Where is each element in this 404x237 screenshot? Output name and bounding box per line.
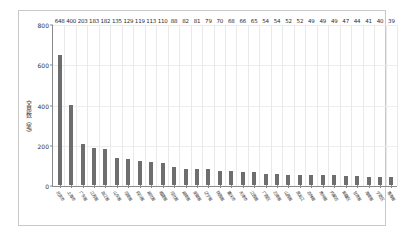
x-tick-mark [346, 185, 347, 188]
bar[interactable] [92, 148, 96, 185]
x-tick-label: 广东省 [77, 189, 88, 202]
x-tick-label: 四川省 [135, 189, 146, 202]
bar-value-label: 49 [319, 18, 326, 24]
bar[interactable] [149, 162, 153, 185]
bar-slot[interactable]: 41海南省 [363, 25, 374, 185]
x-tick-mark [60, 185, 61, 188]
bar-slot[interactable]: 49贵州省 [317, 25, 328, 185]
bar-value-label: 81 [194, 18, 201, 24]
bar-slot[interactable]: 400上海市 [65, 25, 76, 185]
bar-slot[interactable]: 52山西省 [283, 25, 294, 185]
bar-value-label: 82 [182, 18, 189, 24]
bar-slot[interactable]: 183江苏省 [88, 25, 99, 185]
bar[interactable] [81, 144, 85, 185]
bar[interactable] [378, 177, 382, 185]
bar[interactable] [241, 172, 245, 185]
bar[interactable] [367, 177, 371, 185]
bar-value-label: 52 [285, 18, 292, 24]
bar[interactable] [355, 176, 359, 185]
bar-slot[interactable]: 82湖南省 [180, 25, 191, 185]
bar-value-label: 79 [205, 18, 212, 24]
bar-value-label: 65 [251, 18, 258, 24]
bar-slot[interactable]: 81安徽省 [191, 25, 202, 185]
bar-slot[interactable]: 110福建省 [157, 25, 168, 185]
bar-slot[interactable]: 54云南省 [271, 25, 282, 185]
bar[interactable] [138, 161, 142, 185]
bar-slot[interactable]: 135山东省 [111, 25, 122, 185]
bar[interactable] [309, 175, 313, 185]
bar-slot[interactable]: 47新疆区 [340, 25, 351, 185]
x-tick-label: 湖北省 [146, 189, 157, 202]
bar-value-label: 183 [89, 18, 99, 24]
bar[interactable] [264, 174, 268, 185]
bar[interactable] [103, 149, 107, 185]
x-tick-mark [174, 185, 175, 188]
x-tick-label: 福建省 [157, 189, 168, 202]
bar[interactable] [195, 169, 199, 185]
bar-slot[interactable]: 203广东省 [77, 25, 88, 185]
bar[interactable] [218, 171, 222, 185]
bar[interactable] [161, 163, 165, 185]
bar-slot[interactable]: 40宁夏区 [374, 25, 385, 185]
bar-slot[interactable]: 79辽宁省 [203, 25, 214, 185]
bar-value-label: 52 [297, 18, 304, 24]
bar-slot[interactable]: 52黑龙江 [294, 25, 305, 185]
y-tick-mark [50, 145, 53, 146]
x-tick-mark [117, 185, 118, 188]
x-tick-mark [220, 185, 221, 188]
bar[interactable] [286, 175, 290, 185]
bar-value-label: 40 [377, 18, 384, 24]
x-tick-label: 北京市 [55, 189, 66, 202]
bar[interactable] [172, 167, 176, 185]
x-tick-label: 河北省 [169, 189, 180, 202]
bar[interactable] [298, 175, 302, 185]
bar-value-label: 68 [228, 18, 235, 24]
bar-slot[interactable]: 119四川省 [134, 25, 145, 185]
bar[interactable] [58, 55, 62, 185]
bar[interactable] [275, 174, 279, 185]
x-tick-label: 辽宁省 [203, 189, 214, 202]
bar-slot[interactable]: 44甘肃省 [351, 25, 362, 185]
x-tick-label: 上海市 [66, 189, 77, 202]
bar-value-label: 54 [262, 18, 269, 24]
bar-slot[interactable]: 182浙江省 [100, 25, 111, 185]
bar-slot[interactable]: 129河南省 [123, 25, 134, 185]
bar-value-label: 182 [101, 18, 111, 24]
bar-slot[interactable]: 68重庆市 [226, 25, 237, 185]
bar[interactable] [344, 176, 348, 185]
bar-slot[interactable]: 49吉林省 [306, 25, 317, 185]
bar[interactable] [184, 169, 188, 185]
x-tick-label: 湖南省 [180, 189, 191, 202]
x-tick-label: 海南省 [363, 189, 374, 202]
bar[interactable] [206, 169, 210, 185]
bar-slot[interactable]: 49内蒙古 [329, 25, 340, 185]
plot-wrapper: 0200400600800 648北京市400上海市203广东省183江苏省18… [52, 25, 397, 187]
y-tick-label: 800 [38, 22, 49, 29]
bar-slot[interactable]: 66天津市 [237, 25, 248, 185]
bar-slot[interactable]: 113湖北省 [146, 25, 157, 185]
x-tick-mark [94, 185, 95, 188]
bar[interactable] [252, 172, 256, 185]
bar[interactable] [115, 158, 119, 185]
bar[interactable] [321, 175, 325, 185]
bar[interactable] [389, 177, 393, 185]
bar-slot[interactable]: 70陕西省 [214, 25, 225, 185]
bar[interactable] [126, 159, 130, 185]
y-tick-label: 400 [38, 102, 49, 109]
bar-slot[interactable]: 54广西区 [260, 25, 271, 185]
bar[interactable] [229, 171, 233, 185]
x-tick-label: 山东省 [112, 189, 123, 202]
bar-slot[interactable]: 88河北省 [168, 25, 179, 185]
bar[interactable] [332, 175, 336, 185]
x-tick-mark [208, 185, 209, 188]
bar-slot[interactable]: 39青海省 [386, 25, 397, 185]
bar-slot[interactable]: 648北京市 [54, 25, 65, 185]
x-tick-mark [323, 185, 324, 188]
bar-value-label: 41 [365, 18, 372, 24]
x-tick-label: 陕西省 [215, 189, 226, 202]
bar-value-label: 135 [112, 18, 122, 24]
bar-value-label: 88 [171, 18, 178, 24]
bar[interactable] [69, 105, 73, 185]
bar-slot[interactable]: 65江西省 [248, 25, 259, 185]
plot-area: 0200400600800 648北京市400上海市203广东省183江苏省18… [52, 25, 397, 187]
